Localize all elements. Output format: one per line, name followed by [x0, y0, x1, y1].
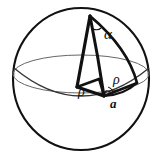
sphere-outline [13, 8, 149, 150]
sphere-diagram-svg [0, 0, 162, 158]
label-rho-right: ρ [113, 73, 120, 87]
geometry-figure: α ρ α ρ a [0, 0, 162, 158]
wedge-flat-face-left-edge [77, 16, 90, 87]
label-alpha-top: α [104, 27, 112, 42]
label-a-bottom: a [110, 97, 117, 110]
apex-angle-arc [93, 28, 101, 30]
label-rho-left: ρ [78, 85, 85, 99]
